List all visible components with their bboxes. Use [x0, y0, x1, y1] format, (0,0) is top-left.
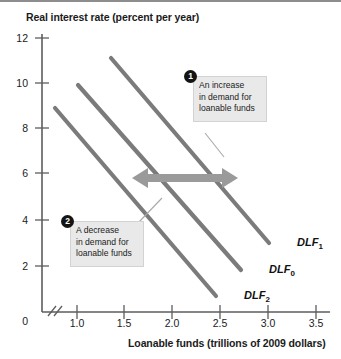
curve-label-dlf1-sub: 1: [318, 242, 322, 251]
curve-label-dlf1-text: DLF: [297, 236, 318, 248]
annotation-2-badge: 2: [61, 215, 74, 228]
curve-dlf2: [55, 108, 216, 296]
curve-label-dlf2-sub: 2: [265, 295, 269, 304]
annotation-2-line-3: loanable funds: [76, 248, 139, 260]
annotation-1-line-1: An increase: [199, 80, 262, 92]
annotation-1-badge: 1: [184, 70, 197, 83]
curve-label-dlf2-text: DLF: [244, 289, 265, 301]
annotation-1-line-2: in demand for: [199, 92, 262, 104]
plot-area: [0, 0, 341, 359]
annotation-1-line-3: loanable funds: [199, 103, 262, 115]
decrease-arrow-icon: [132, 168, 185, 188]
annotation-1-leader-line: [205, 133, 224, 157]
curve-label-dlf0: DLF0: [269, 263, 295, 278]
annotation-2-line-1: A decrease: [76, 225, 139, 237]
curve-label-dlf0-text: DLF: [269, 263, 290, 275]
curve-label-dlf2: DLF2: [244, 289, 270, 304]
annotation-2-line-2: in demand for: [76, 237, 139, 249]
figure-loanable-funds-demand-shifts: Real interest rate (percent per year) 12…: [0, 0, 341, 359]
curve-label-dlf0-sub: 0: [290, 269, 294, 278]
increase-arrow-icon: [185, 168, 238, 188]
curve-label-dlf1: DLF1: [297, 236, 323, 251]
annotation-2-box: A decrease in demand for loanable funds: [70, 221, 144, 267]
annotation-1-box: An increase in demand for loanable funds: [193, 76, 267, 122]
